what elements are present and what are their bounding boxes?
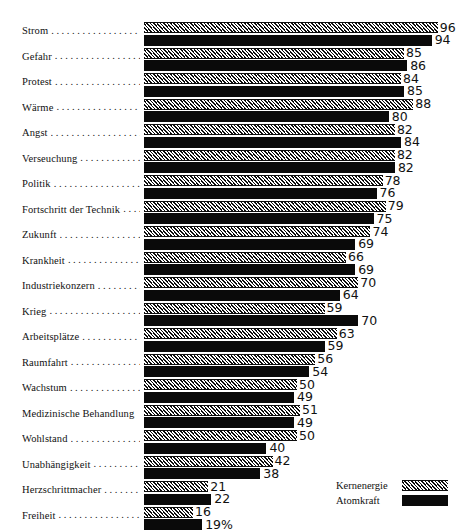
bar-value-atomkraft: 22 (214, 493, 230, 505)
bar-kernenergie (144, 150, 395, 161)
label-dot-leader: ........................... (123, 203, 140, 217)
bar-atomkraft (144, 315, 358, 326)
bar-atomkraft (144, 111, 389, 122)
category-label-text: Krieg (22, 305, 49, 319)
bar-kernenergie (144, 507, 193, 518)
label-dot-leader: ........................... (51, 126, 140, 140)
label-dot-leader: ........................... (70, 381, 140, 395)
bar-kernenergie (144, 481, 208, 492)
chart-row: Verseuchung...........................82… (0, 150, 465, 176)
bar-pair: 8485 (144, 73, 465, 99)
category-label: Unabhängigkeit..........................… (22, 458, 140, 472)
bar-atomkraft (144, 366, 309, 377)
chart-row: Medizinische Behandlung5149 (0, 405, 465, 431)
bar-pair: 5654 (144, 354, 465, 380)
category-label-text: Fortschritt der Technik (22, 203, 123, 217)
category-label: Freiheit........................... (22, 509, 140, 523)
bar-kernenergie (144, 456, 273, 467)
label-dot-leader: ........................... (98, 279, 140, 293)
bar-pair: 5049 (144, 379, 465, 405)
bar-atomkraft (144, 519, 202, 530)
bar-value-atomkraft: 80 (392, 111, 408, 123)
bar-atomkraft (144, 239, 355, 250)
bar-value-atomkraft: 69 (358, 264, 374, 276)
label-dot-leader: ........................... (49, 305, 140, 319)
label-dot-leader: ........................... (60, 228, 140, 242)
chart-row: Wohlstand...........................5040 (0, 430, 465, 456)
legend-label-atomkraft: Atomkraft (336, 494, 402, 507)
category-label-text: Verseuchung (22, 152, 80, 166)
bar-kernenergie (144, 277, 358, 288)
bar-value-kernenergie: 59 (327, 302, 343, 314)
bar-atomkraft (144, 264, 355, 275)
bar-kernenergie (144, 379, 297, 390)
label-dot-leader: ........................... (82, 330, 140, 344)
bar-value-atomkraft: 54 (312, 366, 328, 378)
bar-atomkraft (144, 494, 211, 505)
bar-kernenergie (144, 99, 413, 110)
bar-pair: 7876 (144, 175, 465, 201)
bar-atomkraft (144, 60, 407, 71)
bar-pair: 7975 (144, 201, 465, 227)
label-dot-leader: ........................... (71, 432, 140, 446)
category-label-text: Wohlstand (22, 432, 71, 446)
bar-atomkraft (144, 35, 432, 46)
category-label: Medizinische Behandlung (22, 407, 140, 421)
bar-value-kernenergie: 70 (360, 277, 376, 289)
bar-kernenergie (144, 201, 386, 212)
category-label-text: Gefahr (22, 50, 55, 64)
bar-atomkraft (144, 417, 294, 428)
label-dot-leader: ........................... (51, 24, 140, 38)
chart-row: Industriekonzern........................… (0, 277, 465, 303)
bar-kernenergie (144, 354, 315, 365)
legend-label-kernenergie: Kernenergie (336, 479, 402, 492)
bar-kernenergie (144, 303, 325, 314)
bar-pair: 6669 (144, 252, 465, 278)
bar-kernenergie (144, 22, 438, 33)
category-label: Industriekonzern........................… (22, 279, 140, 293)
bar-pair: 9694 (144, 22, 465, 48)
bar-pair: 8586 (144, 48, 465, 74)
bar-atomkraft (144, 86, 404, 97)
category-label: Wohlstand........................... (22, 432, 140, 446)
bar-atomkraft (144, 468, 260, 479)
category-label-text: Industriekonzern (22, 279, 98, 293)
chart-row: Wachstum...........................5049 (0, 379, 465, 405)
bar-value-atomkraft: 64 (343, 289, 359, 301)
category-label: Krieg........................... (22, 305, 140, 319)
category-label: Zukunft........................... (22, 228, 140, 242)
bar-pair: 8284 (144, 124, 465, 150)
chart-rows: Strom...........................9694Gefa… (0, 22, 465, 532)
category-label-text: Zukunft (22, 228, 60, 242)
label-dot-leader: ........................... (80, 152, 140, 166)
chart-row: Freiheit...........................1619% (0, 507, 465, 532)
category-label: Protest........................... (22, 75, 140, 89)
category-label: Raumfahrt........................... (22, 356, 140, 370)
bar-pair: 5970 (144, 303, 465, 329)
category-label-text: Raumfahrt (22, 356, 71, 370)
category-label: Strom........................... (22, 24, 140, 38)
bar-pair: 8282 (144, 150, 465, 176)
category-label: Politik........................... (22, 177, 140, 191)
bar-value-kernenergie: 50 (299, 430, 315, 442)
bar-kernenergie (144, 328, 337, 339)
label-dot-leader: ........................... (54, 177, 140, 191)
label-dot-leader: ........................... (55, 50, 140, 64)
category-label-text: Strom (22, 24, 51, 38)
category-label-text: Politik (22, 177, 54, 191)
bar-atomkraft (144, 341, 325, 352)
category-label-text: Unabhängigkeit (22, 458, 93, 472)
bar-kernenergie (144, 175, 383, 186)
bar-atomkraft (144, 290, 340, 301)
bar-value-atomkraft: 86 (410, 60, 426, 72)
category-label-text: Arbeitsplätze (22, 330, 82, 344)
chart-row: Krankheit...........................6669 (0, 252, 465, 278)
category-label-text: Krankheit (22, 254, 68, 268)
bar-atomkraft (144, 137, 401, 148)
legend-item-atomkraft: Atomkraft (336, 493, 460, 508)
bar-value-atomkraft: 49 (297, 417, 313, 429)
chart-row: Arbeitsplätze...........................… (0, 328, 465, 354)
chart-legend: Kernenergie Atomkraft (336, 478, 460, 510)
category-label-text: Wachstum (22, 381, 70, 395)
